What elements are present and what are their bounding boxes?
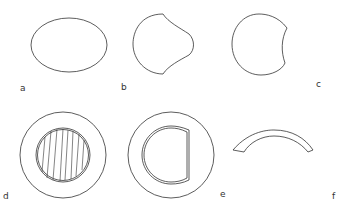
label-f: f xyxy=(332,192,335,201)
label-d: d xyxy=(3,192,9,201)
label-b: b xyxy=(121,83,127,92)
label-a: a xyxy=(20,84,26,93)
shape-e-inner-d-outer xyxy=(142,126,189,184)
shape-e-outer-circle xyxy=(128,112,214,198)
shape-f-arch xyxy=(233,130,313,152)
shape-d-outer-circle xyxy=(20,112,106,198)
label-e: e xyxy=(220,190,226,199)
shape-c-outline xyxy=(232,14,287,75)
shape-b-outline xyxy=(133,14,194,74)
shape-d-hatching xyxy=(42,129,84,181)
shape-a-ellipse xyxy=(31,18,107,72)
shape-d-inner-circle xyxy=(36,128,90,182)
label-c: c xyxy=(316,80,321,89)
figure-drawing xyxy=(0,0,341,209)
shape-e-inner-d-inner xyxy=(144,128,187,182)
figure-canvas: a b c d e f xyxy=(0,0,341,209)
